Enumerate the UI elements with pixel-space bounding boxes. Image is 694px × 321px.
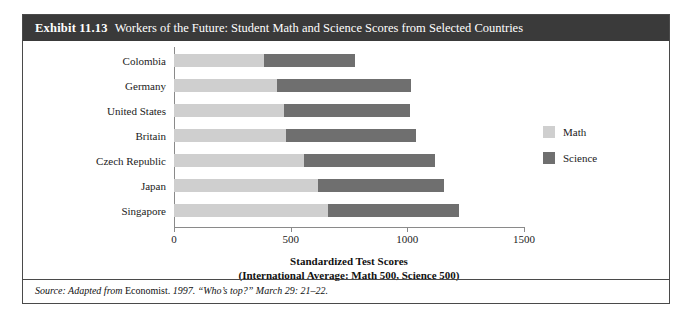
x-axis-title-line1: Standardized Test Scores — [174, 254, 524, 268]
x-tick-label: 1500 — [513, 233, 535, 245]
legend-item: Math — [543, 126, 597, 138]
bar-row — [23, 154, 543, 167]
bar-segment-math — [174, 129, 286, 142]
bar-row — [23, 79, 543, 92]
source-rest: 1997. “Who’s top?” March 29: 21–22. — [173, 285, 328, 296]
legend-label: Science — [563, 152, 597, 164]
bar-row — [23, 129, 543, 142]
x-tick-label: 500 — [282, 233, 299, 245]
bar-segment-science — [284, 104, 410, 117]
exhibit-number: Exhibit 11.13 — [35, 21, 108, 36]
legend-swatch — [543, 126, 555, 138]
bar-segment-science — [328, 204, 459, 217]
exhibit-title: Workers of the Future: Student Math and … — [115, 21, 523, 36]
bar-segment-science — [318, 179, 444, 192]
source-prefix: Source: Adapted from — [35, 285, 122, 296]
source-note: Source: Adapted from Economist. 1997. “W… — [35, 285, 328, 296]
chart-legend: MathScience — [543, 126, 597, 178]
x-tick-mark — [291, 227, 292, 232]
x-tick-label: 1000 — [396, 233, 418, 245]
chart-plot-area: ColombiaGermanyUnited StatesBritainCzech… — [23, 41, 669, 279]
bar-segment-science — [264, 54, 355, 67]
source-publication: Economist. — [125, 285, 170, 296]
bar-row — [23, 179, 543, 192]
legend-swatch — [543, 152, 555, 164]
bar-segment-math — [174, 79, 277, 92]
x-axis-line — [174, 227, 524, 228]
exhibit-title-bar: Exhibit 11.13 Workers of the Future: Stu… — [23, 15, 669, 41]
x-tick-mark — [407, 227, 408, 232]
bar-segment-math — [174, 204, 328, 217]
bar-segment-science — [304, 154, 436, 167]
bar-segment-math — [174, 154, 304, 167]
bar-segment-science — [277, 79, 411, 92]
x-tick-mark — [174, 227, 175, 232]
bar-segment-math — [174, 104, 284, 117]
legend-item: Science — [543, 152, 597, 164]
bar-row — [23, 104, 543, 117]
bar-segment-science — [286, 129, 416, 142]
source-divider — [23, 279, 669, 280]
bar-row — [23, 204, 543, 217]
bar-row — [23, 54, 543, 67]
x-axis-title: Standardized Test Scores (International … — [174, 254, 524, 282]
x-tick-label: 0 — [171, 233, 177, 245]
x-tick-mark — [524, 227, 525, 232]
bar-segment-math — [174, 54, 264, 67]
legend-label: Math — [563, 126, 586, 138]
exhibit-panel: Exhibit 11.13 Workers of the Future: Stu… — [22, 14, 670, 304]
bar-segment-math — [174, 179, 318, 192]
